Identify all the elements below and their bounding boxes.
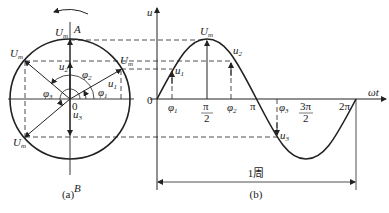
arc-phi1 <box>84 91 86 99</box>
label-origin-b: 0 <box>147 94 153 106</box>
label-u2-b: u2 <box>233 44 243 58</box>
label-u1-b: u1 <box>175 64 184 78</box>
label-phi1-a: φ1 <box>98 86 108 100</box>
tick-pi-over-2-num: π <box>203 100 209 112</box>
tick-phi3: φ3 <box>279 101 289 115</box>
tick-phi2: φ2 <box>227 101 237 115</box>
sine-waveform-panel: u ωt 0 Um u1 u2 u3 φ1 π 2 φ2 π φ3 3π 2 2… <box>147 6 386 201</box>
label-axis-B: B <box>74 182 81 194</box>
label-u3-b: u3 <box>280 129 290 143</box>
phasor-phi3 <box>25 99 70 137</box>
label-axis-A: A <box>73 23 81 35</box>
caption-a: (a) <box>62 188 75 201</box>
label-u2-a: u2 <box>59 60 69 74</box>
tick-3pi-over-2-den: 2 <box>303 112 309 124</box>
tick-2pi: 2π <box>339 100 351 112</box>
label-phi3-a: φ3 <box>43 87 53 101</box>
label-u3-a: u3 <box>73 108 83 122</box>
phasor-circle-panel: Um A B 0 Um Um Um φ1 φ2 φ3 u1 u2 u3 (a) <box>8 9 134 201</box>
tick-pi: π <box>250 100 256 112</box>
rotation-arrow-icon <box>54 9 88 14</box>
period-label: 1周 <box>248 167 265 179</box>
sine-phasor-diagram: Um A B 0 Um Um Um φ1 φ2 φ3 u1 u2 u3 (a) <box>0 0 389 213</box>
label-um-phi2: Um <box>10 47 23 61</box>
label-um-top: Um <box>55 26 68 40</box>
tick-phi1: φ1 <box>168 101 178 115</box>
caption-b: (b) <box>250 188 263 201</box>
label-u1-a: u1 <box>108 77 117 91</box>
label-um-peak: Um <box>200 25 213 39</box>
tick-pi-over-2-den: 2 <box>204 112 210 124</box>
label-phi2-a: φ2 <box>82 68 92 82</box>
label-u-axis: u <box>147 6 153 18</box>
tick-3pi-over-2-num: 3π <box>300 100 312 112</box>
label-wt-axis: ωt <box>368 86 380 98</box>
